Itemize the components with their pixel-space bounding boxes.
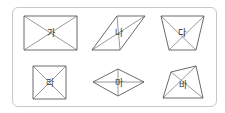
diagonal-line xyxy=(169,16,204,50)
figure-ba: 바 xyxy=(163,66,203,98)
figure-label: 다 xyxy=(178,28,187,38)
figure-ma: 마 xyxy=(93,69,144,96)
figure-label: 라 xyxy=(46,78,55,88)
quadrilaterals-diagram: 가 나 다 라 마 바 xyxy=(0,0,225,113)
figure-label: 바 xyxy=(179,80,188,90)
figure-label: 가 xyxy=(47,28,55,38)
figure-label: 마 xyxy=(115,78,124,88)
figure-label: 나 xyxy=(115,28,123,38)
figure-na: 나 xyxy=(92,16,145,50)
figure-ga: 가 xyxy=(24,16,77,50)
figure-ra: 라 xyxy=(33,66,66,99)
figure-da: 다 xyxy=(161,16,204,50)
